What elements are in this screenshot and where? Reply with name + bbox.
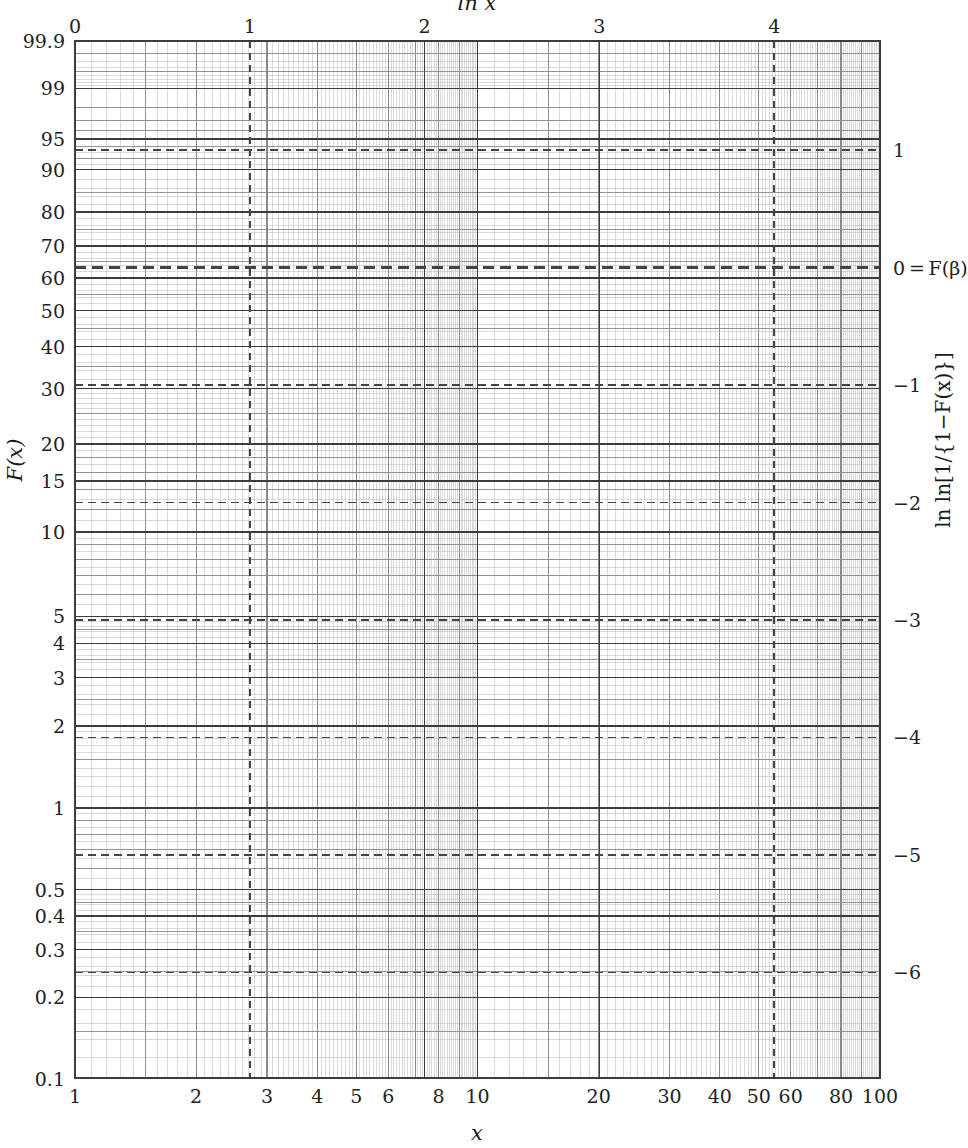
bottom-tick-label-40: 40 xyxy=(708,1085,732,1107)
bottom-tick-label-30: 30 xyxy=(657,1085,681,1107)
right-tick-label-0: 0 = F(β) xyxy=(893,257,968,279)
left-tick-label-0.5: 0.5 xyxy=(35,879,65,901)
right-tick-label-1: 1 xyxy=(893,139,905,161)
top-tick-label-3: 3 xyxy=(593,15,605,37)
bottom-tick-label-10: 10 xyxy=(465,1085,489,1107)
bottom-tick-label-5: 5 xyxy=(350,1085,362,1107)
right-tick-label--1: −1 xyxy=(893,374,921,396)
right-tick-label--5: −5 xyxy=(893,844,921,866)
left-tick-label-50: 50 xyxy=(41,300,65,322)
left-tick-label-3: 3 xyxy=(53,667,65,689)
right-tick-label--6: −6 xyxy=(893,961,921,983)
left-tick-label-60: 60 xyxy=(41,267,65,289)
right-axis-title: ln ln[1/{1−F(x)}] xyxy=(931,352,955,528)
top-tick-label-2: 2 xyxy=(419,15,431,37)
left-tick-label-10: 10 xyxy=(41,521,65,543)
bottom-tick-label-8: 8 xyxy=(432,1085,444,1107)
left-tick-label-30: 30 xyxy=(41,378,65,400)
weibull-probability-paper: 01234 123456810203040506080100 99.999959… xyxy=(0,0,968,1148)
right-tick-label--3: −3 xyxy=(893,609,921,631)
bottom-tick-label-3: 3 xyxy=(261,1085,273,1107)
left-tick-label-0.2: 0.2 xyxy=(35,986,65,1008)
bottom-tick-label-4: 4 xyxy=(311,1085,323,1107)
bottom-tick-label-20: 20 xyxy=(587,1085,611,1107)
left-tick-label-90: 90 xyxy=(41,159,65,181)
right-tick-label--4: −4 xyxy=(893,726,921,748)
left-tick-label-4: 4 xyxy=(53,632,65,654)
left-tick-label-0.4: 0.4 xyxy=(35,905,65,927)
top-tick-label-4: 4 xyxy=(768,15,780,37)
left-tick-label-40: 40 xyxy=(41,336,65,358)
bottom-tick-label-6: 6 xyxy=(382,1085,394,1107)
left-tick-label-99.9: 99.9 xyxy=(23,30,65,52)
left-tick-label-2: 2 xyxy=(53,715,65,737)
left-tick-label-99: 99 xyxy=(41,77,65,99)
bottom-tick-label-1: 1 xyxy=(69,1085,81,1107)
left-tick-label-1: 1 xyxy=(53,797,65,819)
left-axis-title: F(x) xyxy=(3,439,27,483)
left-tick-label-80: 80 xyxy=(41,201,65,223)
bottom-tick-label-100: 100 xyxy=(862,1085,898,1107)
bottom-tick-label-80: 80 xyxy=(829,1085,853,1107)
left-tick-label-0.3: 0.3 xyxy=(35,939,65,961)
bottom-axis-title: x xyxy=(471,1121,483,1145)
bottom-tick-label-50: 50 xyxy=(747,1085,771,1107)
probability-paper-canvas: 01234 123456810203040506080100 99.999959… xyxy=(0,0,968,1148)
top-tick-label-1: 1 xyxy=(244,15,256,37)
top-tick-label-0: 0 xyxy=(69,15,81,37)
left-tick-label-0.1: 0.1 xyxy=(35,1068,65,1090)
left-tick-label-20: 20 xyxy=(41,433,65,455)
left-tick-label-70: 70 xyxy=(41,235,65,257)
left-tick-label-95: 95 xyxy=(41,128,65,150)
left-tick-label-15: 15 xyxy=(41,470,65,492)
top-axis-title: ln x xyxy=(458,0,497,15)
left-tick-label-5: 5 xyxy=(53,605,65,627)
bottom-tick-label-60: 60 xyxy=(779,1085,803,1107)
right-tick-label--2: −2 xyxy=(893,492,921,514)
bottom-tick-label-2: 2 xyxy=(190,1085,202,1107)
